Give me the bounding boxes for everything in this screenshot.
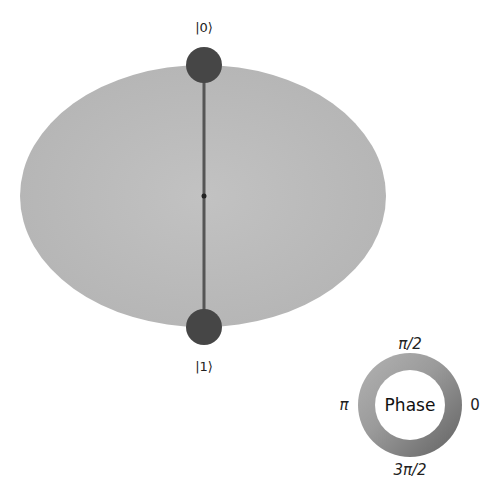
state-marker-0 <box>186 47 222 83</box>
phase-tick-right: 0 <box>470 396 480 414</box>
state-label-1: |1⟩ <box>195 359 213 374</box>
state-marker-1 <box>186 309 222 345</box>
phase-tick-left: π <box>339 396 348 414</box>
phase-tick-bottom: 3π/2 <box>393 461 426 479</box>
qsphere-svg <box>0 0 504 503</box>
phase-tick-top: π/2 <box>398 335 422 353</box>
phase-legend-title: Phase <box>385 395 436 415</box>
state-label-0: |0⟩ <box>195 20 213 35</box>
qsphere-figure: |0⟩ |1⟩ π/2 π 0 3π/2 Phase <box>0 0 504 503</box>
sphere-center-point <box>202 194 207 199</box>
